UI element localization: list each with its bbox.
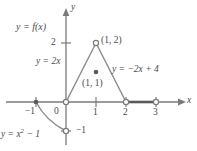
y-axis <box>63 8 70 145</box>
function-title-label: y = f(x) <box>16 22 46 32</box>
left-line-equation-label: y = 2x <box>36 57 60 67</box>
y-tick-label-neg1: −1 <box>76 126 86 136</box>
open-circle-markers <box>63 40 158 133</box>
x-tick-label-neg1: −1 <box>25 107 35 117</box>
x-tick-label-1: 1 <box>93 108 98 118</box>
parabola-endpoint-marker <box>34 100 39 105</box>
right-line-equation-label: y = −2x + 4 <box>112 65 159 75</box>
interior-point-label: (1, 1) <box>82 79 103 89</box>
x-axis-label: x <box>187 96 191 106</box>
parabola-equation-tail: − 1 <box>24 129 40 139</box>
interior-filled-point <box>94 70 99 75</box>
y-tick-label-2: 2 <box>51 38 56 48</box>
x-tick-label-3: 3 <box>153 108 158 118</box>
x-tick-label-2: 2 <box>123 108 128 118</box>
x2-open-circle <box>123 99 128 104</box>
apex-open-circle <box>93 40 98 45</box>
x3-open-circle <box>153 99 158 104</box>
origin-open-circle <box>63 99 68 104</box>
parabola-equation-label: y = x2 − 1 <box>1 128 40 140</box>
apex-point-label: (1, 2) <box>101 36 122 46</box>
function-graph-figure: y = f(x) y x 2 −1 −1 0 1 2 3 y = 2x y = … <box>0 0 197 151</box>
y-neg1-open-circle <box>63 128 68 133</box>
rising-line-2x <box>66 43 96 102</box>
parabola-equation-base: y = x <box>1 129 21 139</box>
y-axis-label: y <box>71 3 75 13</box>
parabola-curve <box>36 102 66 131</box>
x-tick-label-0: 0 <box>54 107 59 117</box>
